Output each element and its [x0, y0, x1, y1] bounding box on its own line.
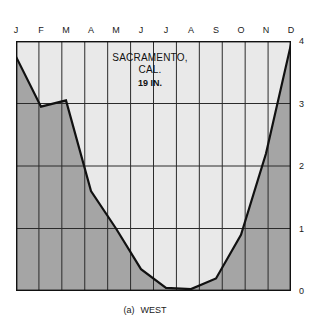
- x-tick-label-july: J: [155, 24, 177, 36]
- x-tick-label-june: J: [130, 24, 152, 36]
- x-tick-label-april: A: [80, 24, 102, 36]
- figure-caption-text: WEST: [141, 305, 167, 315]
- figure-caption: (a)WEST: [0, 305, 290, 315]
- y-tick-label-0: 0: [299, 286, 304, 296]
- figure-caption-tag: (a): [124, 305, 135, 315]
- precipitation-figure: JFMAMJJASOND 01234 SACRAMENTO, CAL. 19 I…: [0, 0, 319, 336]
- x-tick-label-may: M: [105, 24, 127, 36]
- x-tick-label-august: A: [180, 24, 202, 36]
- plot-area: [16, 41, 291, 291]
- x-tick-label-november: N: [255, 24, 277, 36]
- area-chart-svg: [16, 41, 291, 291]
- y-axis-labels: 01234: [294, 0, 319, 336]
- x-tick-label-september: S: [205, 24, 227, 36]
- x-tick-label-october: O: [230, 24, 252, 36]
- y-tick-label-3: 3: [299, 99, 304, 109]
- x-tick-label-january: J: [5, 24, 27, 36]
- x-tick-label-march: M: [55, 24, 77, 36]
- x-axis-month-labels: JFMAMJJASOND: [16, 24, 291, 40]
- y-tick-label-4: 4: [299, 36, 304, 46]
- y-tick-label-1: 1: [299, 224, 304, 234]
- y-tick-label-2: 2: [299, 161, 304, 171]
- x-tick-label-february: F: [30, 24, 52, 36]
